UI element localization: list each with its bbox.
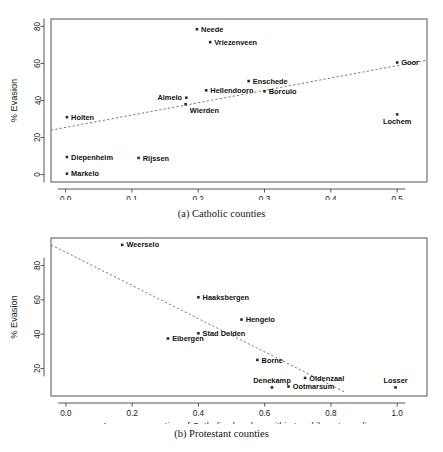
data-point: [304, 377, 307, 380]
x-tick-label: 0.2: [193, 195, 205, 201]
data-point-label: Stad Delden: [203, 329, 246, 338]
data-point: [205, 89, 208, 92]
data-point-label: Hellendoorn: [210, 86, 254, 95]
x-tick-label: 0.2: [126, 409, 138, 418]
y-tick-label: 80: [34, 260, 43, 270]
y-axis-title: % Evasion: [9, 295, 19, 338]
data-point-label: Weerselo: [126, 240, 159, 249]
scatter-plot-catholic: 0.00.10.20.30.40.5020406080% EvasionAver…: [0, 0, 443, 200]
y-tick-label: 20: [34, 364, 43, 374]
data-point: [247, 80, 250, 83]
data-point: [240, 318, 243, 321]
data-point-label: Losser: [383, 376, 407, 385]
data-point: [287, 385, 290, 388]
data-point: [66, 116, 69, 119]
data-point-label: Denekamp: [253, 376, 291, 385]
x-tick-label: 0.8: [325, 409, 337, 418]
data-point-label: Borne: [262, 356, 283, 365]
x-tick-label: 0.5: [391, 195, 403, 201]
x-tick-label: 0.0: [60, 195, 72, 201]
panel-protestant-counties: 0.00.20.40.60.81.020406080% EvasionAvera…: [0, 226, 443, 452]
data-point: [121, 244, 124, 247]
x-tick-label: 1.0: [391, 409, 403, 418]
data-point-label: Goor: [401, 58, 419, 67]
y-tick-label: 40: [34, 329, 43, 339]
data-point: [167, 337, 170, 340]
y-tick-label: 60: [34, 295, 43, 305]
data-point: [396, 61, 399, 64]
y-tick-label: 80: [34, 21, 43, 31]
data-point-label: Haaksbergen: [203, 293, 250, 302]
data-point: [209, 41, 212, 44]
data-point-label: Lochem: [383, 117, 412, 126]
data-point: [66, 156, 69, 159]
data-point-label: Ootmarsum: [293, 382, 335, 391]
data-point-label: Borculo: [269, 87, 297, 96]
data-point-label: Vriezenveen: [214, 38, 257, 47]
panel-catholic-counties: 0.00.10.20.30.40.5020406080% EvasionAver…: [0, 0, 443, 226]
data-point-label: Diepenheim: [71, 153, 113, 162]
data-point: [184, 103, 187, 106]
data-point-label: Wierden: [190, 106, 220, 115]
x-tick-label: 0.4: [193, 409, 205, 418]
data-point: [263, 90, 266, 93]
trend-line: [51, 245, 346, 393]
data-point: [271, 386, 274, 389]
caption-panel-a: (a) Catholic counties: [0, 208, 443, 219]
y-tick-label: 40: [34, 96, 43, 106]
data-point-label: Hengelo: [246, 315, 276, 324]
data-point: [256, 359, 259, 362]
data-point-label: Holten: [71, 113, 94, 122]
x-axis-title: Average proportion of Catholic churches …: [102, 421, 377, 424]
y-tick-label: 60: [34, 58, 43, 68]
data-point: [66, 172, 69, 175]
data-point-label: Rijssen: [143, 154, 170, 163]
y-tick-label: 0: [34, 172, 43, 177]
data-point: [394, 386, 397, 389]
x-tick-label: 0.3: [259, 195, 271, 201]
x-tick-label: 0.1: [126, 195, 138, 201]
data-point: [197, 296, 200, 299]
data-point: [185, 96, 188, 99]
x-tick-label: 0.6: [259, 409, 271, 418]
data-point-label: Almelo: [157, 93, 182, 102]
data-point-label: Eibergen: [172, 334, 204, 343]
y-tick-label: 20: [34, 133, 43, 143]
data-point-label: Enschede: [253, 77, 288, 86]
y-axis-title: % Evasion: [9, 79, 19, 122]
data-point: [396, 113, 399, 116]
data-point-label: Neede: [201, 25, 223, 34]
data-point-label: Markelo: [71, 169, 99, 178]
plot-frame: [51, 238, 427, 396]
trend-line: [51, 60, 427, 130]
data-point: [196, 28, 199, 31]
figure-two-panel-scatter: 0.00.10.20.30.40.5020406080% EvasionAver…: [0, 0, 443, 452]
data-point: [137, 157, 140, 160]
caption-panel-b: (b) Protestant counties: [0, 428, 443, 439]
scatter-plot-protestant: 0.00.20.40.60.81.020406080% EvasionAvera…: [0, 226, 443, 424]
x-tick-label: 0.0: [60, 409, 72, 418]
x-tick-label: 0.4: [325, 195, 337, 201]
